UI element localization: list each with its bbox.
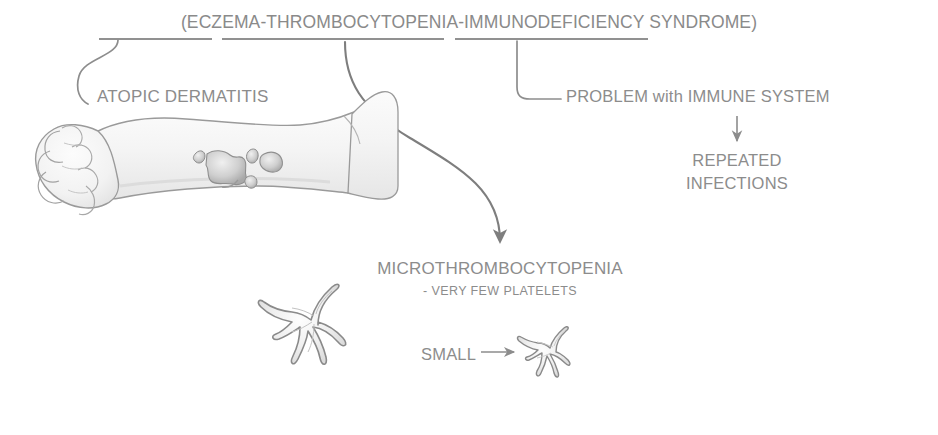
diagram-artwork: [0, 0, 938, 435]
small-platelet-shape: [518, 327, 570, 377]
label-infections: INFECTIONS: [686, 175, 788, 192]
lesion-mid-top: [247, 149, 259, 163]
label-microthrombocytopenia: MICROTHROMBOCYTOPENIA: [377, 260, 623, 277]
label-atopic-dermatitis: ATOPIC DERMATITIS: [97, 88, 269, 105]
wiskott-aldrich-syndrome-diagram: (ECZEMA-THROMBOCYTOPENIA-IMMUNODEFICIENC…: [0, 0, 938, 435]
label-problem-with-immune-system: PROBLEM with IMMUNE SYSTEM: [566, 88, 830, 105]
large-platelet-shape: [258, 284, 345, 364]
arm-with-eczema-illustration: [36, 92, 398, 215]
label-small: SMALL: [421, 346, 476, 363]
label-very-few-platelets: - VERY FEW PLATELETS: [423, 285, 577, 298]
large-spiky-platelet-illustration: [258, 284, 345, 364]
leader-line-to-immune-problem: [517, 41, 561, 99]
lesion-small-bottom: [245, 176, 257, 188]
label-repeated: REPEATED: [692, 152, 781, 169]
upper-arm-shape: [348, 92, 398, 199]
page-title: (ECZEMA-THROMBOCYTOPENIA-IMMUNODEFICIENC…: [181, 14, 757, 32]
small-spiky-platelet-illustration: [518, 327, 570, 377]
lesion-right: [260, 152, 283, 172]
